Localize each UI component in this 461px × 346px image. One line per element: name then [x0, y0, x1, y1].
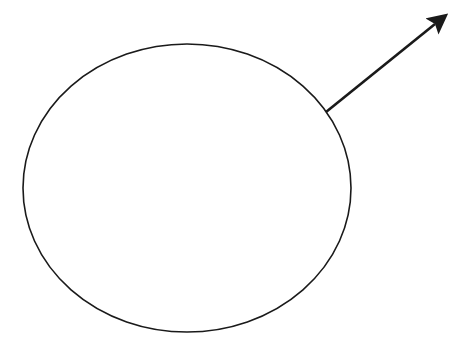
- arrow-line: [326, 24, 435, 112]
- ellipse-shape: [23, 44, 351, 332]
- diagram-svg: [0, 0, 461, 346]
- diagram-canvas: [0, 0, 461, 346]
